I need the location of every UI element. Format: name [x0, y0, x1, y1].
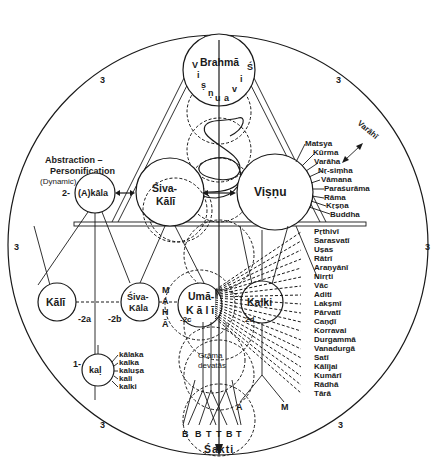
avatar-label: Paraśurāma: [324, 184, 370, 193]
maha-letters: M A H Ā: [162, 285, 170, 329]
svg-text:1-: 1-: [73, 359, 81, 369]
goddess-label: Vāc: [314, 281, 329, 290]
brahma-letter: i: [197, 70, 200, 80]
svg-text:devatās: devatās: [198, 361, 226, 370]
region-number: 3: [336, 75, 341, 85]
brahma-node: Brahmā V i ṣ ṇ u a Ś i v: [183, 34, 255, 106]
svg-text:(A)kāla: (A)kāla: [78, 188, 109, 198]
region-number: 3: [338, 420, 343, 430]
svg-text:Śiva-: Śiva-: [127, 291, 149, 302]
varahi-label: Varāhī: [356, 119, 381, 142]
goddess-list: Pṛthivī Sarasvatī Uṣas Rātrī Araṇyānī Ni…: [296, 226, 356, 398]
goddess-label: Rādhā: [314, 380, 339, 389]
serpentine-path: [199, 118, 243, 198]
brahma-letter: u: [215, 93, 221, 103]
goddess-label: Pārvatī: [314, 308, 341, 317]
svg-text:Kalki: Kalki: [247, 296, 272, 308]
avatar-label: Kṛṣṇa: [326, 201, 349, 210]
svg-text:Śiva-: Śiva-: [152, 182, 178, 194]
goddess-label: Sarasvatī: [314, 236, 350, 245]
svg-text:Kāla: Kāla: [129, 303, 149, 313]
bottom-letters: B B T T B T: [182, 429, 242, 439]
brahma-letter: Ś: [247, 61, 253, 72]
svg-text:Grāma: Grāma: [198, 351, 223, 360]
avatar-label: Vāmana: [321, 175, 352, 184]
svg-text:-2a: -2a: [78, 314, 92, 324]
svg-text:(Dynamic): (Dynamic): [40, 177, 77, 186]
brahma-label: Brahmā: [200, 56, 239, 68]
visnu-node: Viṣṇu: [237, 154, 313, 230]
goddess-label: Durgammā: [314, 335, 356, 344]
avatar-label: Nṛ-siṃha: [318, 166, 353, 175]
kal-node: kaḷ 1-: [73, 354, 114, 386]
goddess-label: Araṇyānī: [314, 263, 349, 272]
goddess-label: Pṛthivī: [314, 227, 340, 236]
avatar-label: Matsya: [305, 139, 333, 148]
brahma-letter: V: [192, 60, 198, 70]
svg-text:T: T: [206, 429, 212, 439]
sakti-label: Śakti: [204, 443, 234, 455]
region-number: 3: [425, 242, 430, 252]
brahma-letter: i: [240, 74, 243, 84]
arrow-right-icon: [130, 190, 135, 196]
dashed-circles: [148, 80, 255, 456]
brahma-letter: ṇ: [208, 88, 214, 98]
goddess-label: Korravai: [314, 326, 346, 335]
mandala-diagram: 3 3 3 3 3 3 Brahmā V i ṣ ṇ u a Ś: [0, 0, 441, 465]
svg-text:Ā: Ā: [162, 319, 169, 329]
svg-text:M: M: [281, 402, 289, 412]
goddess-label: Nirṛti: [314, 272, 333, 281]
svg-text:Kālī: Kālī: [46, 296, 66, 308]
svg-text:kaḷ: kaḷ: [89, 365, 102, 375]
svg-text:B: B: [226, 429, 233, 439]
kali-node: Kālī -2a: [38, 283, 92, 324]
svg-text:2-: 2-: [62, 188, 70, 198]
region-number: 3: [14, 242, 19, 252]
svg-text:T: T: [236, 429, 242, 439]
svg-text:-2c: -2c: [180, 315, 192, 324]
svg-text:Kālī: Kālī: [156, 195, 176, 207]
goddess-label: Vanadurgā: [314, 344, 355, 353]
region-number: 3: [100, 420, 105, 430]
arrow-left-icon: [115, 190, 120, 196]
svg-text:Umā-: Umā-: [188, 290, 215, 302]
brahma-letter: v: [232, 84, 237, 94]
svg-text:Viṣṇu: Viṣṇu: [254, 185, 286, 199]
goddess-label: Aditi: [314, 290, 332, 299]
svg-text:T: T: [216, 429, 222, 439]
avatar-label: Varāha: [314, 157, 341, 166]
horizontal-bar: [74, 222, 366, 226]
svg-text:Personification: Personification: [50, 166, 115, 176]
bottom-branches: [183, 380, 241, 425]
svg-text:-2b: -2b: [108, 314, 122, 324]
goddess-label: Kumārī: [314, 371, 342, 380]
kal-word: kalki: [119, 382, 137, 391]
goddess-label: Rātrī: [314, 254, 333, 263]
goddess-label: Lakṣmī: [314, 299, 342, 308]
region-number: 3: [100, 75, 105, 85]
siva-kali-node: Śiva- Kālī: [136, 158, 207, 242]
goddess-label: Uṣas: [314, 245, 334, 254]
avatar-label: Buddha: [330, 210, 360, 219]
svg-text:Abstraction –: Abstraction –: [45, 155, 103, 165]
svg-text:B: B: [182, 429, 189, 439]
goddess-label: Tārā: [314, 389, 331, 398]
avatar-label: Kūrma: [313, 148, 339, 157]
goddess-label: Caṇḍī: [314, 317, 337, 326]
goddess-label: Satī: [314, 353, 329, 362]
kalki-node: Kalki 2d A M: [236, 226, 289, 412]
svg-text:B: B: [195, 429, 202, 439]
siva-kala-node: Śiva- Kāla -2b: [108, 283, 159, 324]
brahma-letter: ṣ: [201, 80, 206, 90]
goddess-label: Kālījai: [314, 362, 338, 371]
kal-words: kālaka kalka kaluṣa kali kalki: [112, 350, 144, 391]
